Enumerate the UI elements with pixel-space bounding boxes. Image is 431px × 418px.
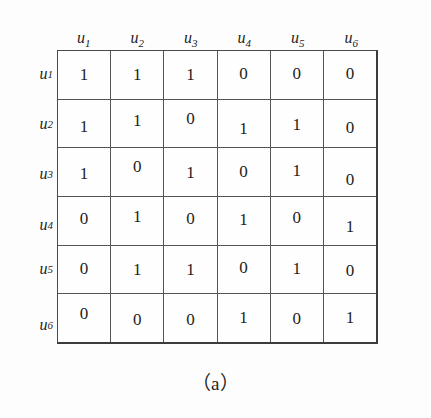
cell-value: 1 (346, 309, 355, 326)
matrix-cell-u1-u4: 0 (218, 51, 271, 99)
cell-value: 1 (133, 208, 142, 225)
cell-value: 1 (293, 162, 302, 179)
cell-value: 1 (239, 211, 248, 228)
matrix-grid: 111000110110101010010101011010000101 (57, 50, 378, 344)
column-header-u5: u5 (271, 26, 325, 50)
cell-value: 1 (239, 309, 248, 326)
row-header-u3-base: u (40, 165, 48, 183)
cell-value: 0 (346, 171, 355, 188)
column-header-u4-base: u (238, 29, 246, 46)
figure-caption: （a） (0, 368, 431, 395)
row-header-u6-base: u (40, 316, 48, 334)
matrix-row: 111000 (58, 51, 376, 100)
cell-value: 1 (346, 218, 355, 235)
row-header-u1: u1 (22, 49, 55, 98)
row-header-u4-base: u (40, 216, 48, 234)
column-header-u1: u1 (57, 26, 111, 50)
matrix-cell-u1-u3: 1 (164, 51, 217, 99)
matrix-cell-u1-u1: 1 (58, 51, 111, 99)
column-header-u1-base: u (77, 29, 85, 46)
binary-matrix-figure: u1 u2 u3 u4 u5 u6 u1 u2 u3 u4 u5 u6 1110… (0, 0, 431, 418)
column-header-u5-subscript: 5 (299, 37, 305, 49)
matrix-cell-u6-u6: 1 (324, 294, 376, 342)
column-header-u3-subscript: 3 (192, 37, 198, 49)
row-header-axis: u1 u2 u3 u4 u5 u6 (22, 50, 55, 344)
matrix-cell-u2-u4: 1 (218, 100, 271, 148)
matrix-cell-u6-u5: 0 (271, 294, 324, 342)
column-header-u4: u4 (218, 26, 272, 50)
matrix-cell-u5-u4: 0 (218, 246, 271, 294)
row-header-u6-subscript: 6 (48, 319, 54, 331)
matrix-cell-u2-u2: 1 (111, 100, 164, 148)
cell-value: 0 (293, 65, 302, 82)
matrix-cell-u1-u6: 0 (324, 51, 376, 99)
cell-value: 0 (80, 305, 89, 322)
matrix-cell-u3-u6: 0 (324, 148, 376, 196)
column-header-u4-subscript: 4 (246, 37, 252, 49)
column-header-u2: u2 (111, 26, 165, 50)
column-header-u2-base: u (131, 29, 139, 46)
matrix-cell-u3-u1: 1 (58, 148, 111, 196)
matrix-row: 011010 (58, 246, 376, 295)
cell-value: 0 (133, 311, 142, 328)
cell-value: 1 (293, 260, 302, 277)
matrix-cell-u6-u2: 0 (111, 294, 164, 342)
column-header-axis: u1 u2 u3 u4 u5 u6 (57, 26, 378, 50)
cell-value: 1 (80, 118, 89, 135)
matrix-cell-u4-u5: 0 (271, 197, 324, 245)
matrix-cell-u5-u3: 1 (164, 246, 217, 294)
cell-value: 1 (80, 66, 89, 83)
column-header-u6-base: u (345, 29, 353, 46)
cell-value: 0 (346, 119, 355, 136)
matrix-cell-u4-u6: 1 (324, 197, 376, 245)
matrix-cell-u4-u3: 0 (164, 197, 217, 245)
matrix-row: 101010 (58, 148, 376, 197)
column-header-u3: u3 (164, 26, 218, 50)
cell-value: 1 (186, 164, 195, 181)
row-header-u3: u3 (22, 149, 55, 198)
matrix-row: 010101 (58, 197, 376, 246)
column-header-u6-subscript: 6 (353, 37, 359, 49)
cell-value: 0 (239, 259, 248, 276)
matrix-cell-u6-u3: 0 (164, 294, 217, 342)
row-header-u3-subscript: 3 (48, 168, 54, 180)
matrix-cell-u5-u6: 0 (324, 246, 376, 294)
cell-value: 0 (293, 310, 302, 327)
row-header-u5: u5 (22, 244, 55, 293)
matrix-cell-u4-u2: 1 (111, 197, 164, 245)
matrix-cell-u2-u1: 1 (58, 100, 111, 148)
row-header-u1-subscript: 1 (48, 68, 54, 80)
cell-value: 1 (133, 112, 142, 129)
matrix-cell-u3-u3: 1 (164, 148, 217, 196)
column-header-u1-subscript: 1 (85, 37, 91, 49)
matrix-cell-u4-u4: 1 (218, 197, 271, 245)
row-header-u1-base: u (40, 65, 48, 83)
cell-value: 0 (186, 311, 195, 328)
matrix-cell-u1-u2: 1 (111, 51, 164, 99)
matrix-cell-u4-u1: 0 (58, 197, 111, 245)
cell-value: 1 (133, 66, 142, 83)
matrix-cell-u3-u4: 0 (218, 148, 271, 196)
row-header-u5-base: u (40, 260, 48, 278)
cell-value: 1 (186, 66, 195, 83)
row-header-u4: u4 (22, 200, 55, 249)
matrix-cell-u5-u5: 1 (271, 246, 324, 294)
column-header-u6: u6 (325, 26, 379, 50)
row-header-u2-subscript: 2 (48, 118, 54, 130)
matrix-cell-u3-u5: 1 (271, 148, 324, 196)
cell-value: 0 (186, 110, 195, 127)
cell-value: 1 (293, 116, 302, 133)
matrix-cell-u6-u4: 1 (218, 294, 271, 342)
cell-value: 0 (346, 262, 355, 279)
matrix-cell-u5-u1: 0 (58, 246, 111, 294)
matrix-row: 000101 (58, 294, 376, 342)
matrix-row: 110110 (58, 100, 376, 149)
cell-value: 0 (80, 260, 89, 277)
cell-value: 0 (133, 158, 142, 175)
matrix-cell-u3-u2: 0 (111, 148, 164, 196)
cell-value: 1 (186, 261, 195, 278)
column-header-u5-base: u (291, 29, 299, 46)
matrix-cell-u2-u6: 0 (324, 100, 376, 148)
row-header-u6: u6 (22, 300, 55, 349)
row-header-u4-subscript: 4 (48, 219, 54, 231)
